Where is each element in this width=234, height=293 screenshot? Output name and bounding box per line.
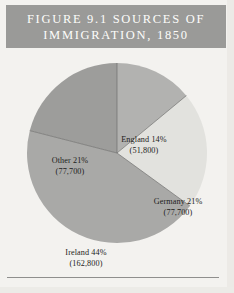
pie-label-other-name: Other 21% [32, 156, 108, 167]
pie-label-germany-value: (77,700) [141, 208, 215, 219]
pie-label-ireland: Ireland 44% (162,800) [47, 248, 125, 269]
figure-title-line-1: FIGURE 9.1 SOURCES OF [27, 11, 205, 27]
scan-edge-bottom [0, 287, 234, 293]
figure-title-line-2: IMMIGRATION, 1850 [43, 27, 189, 43]
pie-label-germany-name: Germany 21% [141, 197, 215, 208]
pie-label-ireland-name: Ireland 44% [47, 248, 125, 259]
pie-label-other-value: (77,700) [32, 167, 108, 178]
figure-bottom-rule [7, 277, 219, 278]
figure-title-bar: FIGURE 9.1 SOURCES OF IMMIGRATION, 1850 [6, 5, 226, 48]
figure-container: FIGURE 9.1 SOURCES OF IMMIGRATION, 1850 [0, 0, 234, 293]
scan-edge-right [227, 0, 234, 293]
pie-label-germany: Germany 21% (77,700) [141, 197, 215, 218]
pie-label-england-name: England 14% [107, 135, 181, 146]
pie-chart-area: England 14% (51,800) Germany 21% (77,700… [0, 52, 234, 257]
pie-label-england-value: (51,800) [107, 146, 181, 157]
pie-label-ireland-value: (162,800) [47, 259, 125, 270]
pie-label-other: Other 21% (77,700) [32, 156, 108, 177]
pie-label-england: England 14% (51,800) [107, 135, 181, 156]
